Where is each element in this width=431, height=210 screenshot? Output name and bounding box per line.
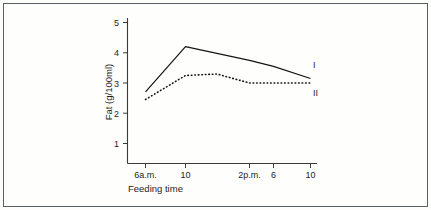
series-label-i: I [313, 60, 316, 70]
x-tick-label-4: 10 [305, 170, 315, 180]
y-tick-label-5: 5 [114, 18, 119, 28]
y-axis-title: Fat (g/100ml) [103, 64, 114, 121]
y-tick-label-4: 4 [114, 48, 119, 58]
x-tick-label-1: 10 [180, 170, 190, 180]
series-ii-line [146, 74, 311, 100]
y-axis-ticks [123, 23, 128, 144]
y-tick-label-2: 2 [114, 109, 119, 119]
y-tick-label-1: 1 [114, 139, 119, 149]
figure-container: 5 4 3 2 1 6a.m. 10 2p.m. 6 10 Feeding ti… [0, 0, 431, 210]
x-tick-label-0: 6a.m. [134, 170, 157, 180]
series-label-ii: II [313, 88, 318, 98]
x-tick-label-2: 2p.m. [238, 170, 261, 180]
line-chart: 5 4 3 2 1 6a.m. 10 2p.m. 6 10 Feeding ti… [0, 0, 431, 210]
x-axis-ticks [146, 164, 311, 169]
x-axis-title: Feeding time [128, 183, 183, 194]
x-tick-label-3: 6 [271, 170, 276, 180]
y-tick-label-3: 3 [114, 79, 119, 89]
